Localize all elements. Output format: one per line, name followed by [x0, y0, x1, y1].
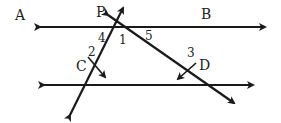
label-angle-1: 1 — [119, 33, 127, 47]
label-p: P — [96, 4, 105, 20]
label-angle-2: 2 — [88, 45, 96, 59]
transversal-pd — [108, 15, 234, 103]
label-d: D — [199, 57, 210, 73]
label-a: A — [14, 7, 26, 23]
label-c: C — [76, 58, 87, 74]
label-angle-5: 5 — [145, 29, 153, 43]
label-b: B — [201, 6, 211, 22]
label-angle-3: 3 — [187, 46, 195, 60]
label-angle-4: 4 — [98, 31, 106, 45]
geometry-diagram: A P B 4 1 5 2 C 3 D — [0, 0, 281, 123]
